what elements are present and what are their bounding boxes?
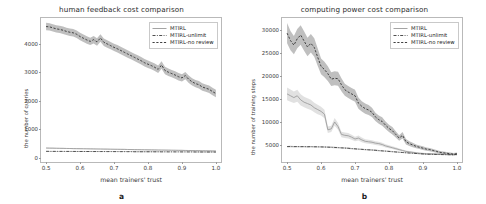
chart-title-a: human feedback cost comparison	[0, 5, 243, 14]
x-tick-mark	[287, 162, 288, 164]
y-tick-label: 10000	[262, 119, 282, 125]
legend-label: MTIRL-no review	[170, 39, 214, 46]
legend-item[interactable]: MTIRL-no review	[393, 39, 455, 46]
x-tick-mark	[148, 162, 149, 164]
panel-caption-a: a	[0, 192, 243, 201]
panel-b: computing power cost comparison the numb…	[243, 0, 486, 204]
legend-key	[393, 32, 408, 39]
plot-area-a: 010002000300040000.50.60.70.80.91.0MTIRL…	[40, 17, 222, 163]
x-axis-label-a: mean trainers' trust	[40, 176, 222, 183]
x-tick-mark	[114, 162, 115, 164]
legend: MTIRLMTIRL-unlimitMTIRL-no review	[149, 22, 218, 49]
x-tick-mark	[321, 162, 322, 164]
legend: MTIRLMTIRL-unlimitMTIRL-no review	[390, 22, 459, 49]
legend-key	[152, 25, 167, 32]
y-tick-label: 30000	[262, 27, 282, 33]
legend-label: MTIRL	[170, 25, 186, 32]
panel-caption-b: b	[243, 192, 486, 201]
y-tick-label: 25000	[262, 50, 282, 56]
x-tick-mark	[46, 162, 47, 164]
legend-item[interactable]: MTIRL-unlimit	[152, 32, 214, 39]
legend-item[interactable]: MTIRL	[152, 25, 214, 32]
x-tick-mark	[423, 162, 424, 164]
legend-item[interactable]: MTIRL	[393, 25, 455, 32]
legend-label: MTIRL-unlimit	[170, 32, 206, 39]
x-tick-mark	[182, 162, 183, 164]
x-tick-mark	[389, 162, 390, 164]
legend-key	[152, 39, 167, 46]
legend-key	[393, 25, 408, 32]
legend-item[interactable]: MTIRL-no review	[152, 39, 214, 46]
legend-key	[152, 32, 167, 39]
y-tick-label: 15000	[262, 96, 282, 102]
chart-title-b: computing power cost comparison	[243, 5, 486, 14]
legend-label: MTIRL	[411, 25, 427, 32]
x-tick-mark	[216, 162, 217, 164]
legend-item[interactable]: MTIRL-unlimit	[393, 32, 455, 39]
confidence-band	[287, 87, 457, 155]
legend-key	[393, 39, 408, 46]
figure-root: human feedback cost comparison the numbe…	[0, 0, 486, 204]
panel-a: human feedback cost comparison the numbe…	[0, 0, 243, 204]
x-axis-label-b: mean trainers' trust	[281, 176, 463, 183]
plot-area-b: 500010000150002000025000300000.50.60.70.…	[281, 17, 463, 163]
x-tick-mark	[457, 162, 458, 164]
legend-label: MTIRL-unlimit	[411, 32, 447, 39]
x-tick-mark	[80, 162, 81, 164]
series-line	[46, 148, 216, 151]
y-tick-label: 20000	[262, 73, 282, 79]
x-tick-mark	[355, 162, 356, 164]
y-axis-label-b: the number of training steps	[250, 79, 256, 155]
legend-label: MTIRL-no review	[411, 39, 455, 46]
